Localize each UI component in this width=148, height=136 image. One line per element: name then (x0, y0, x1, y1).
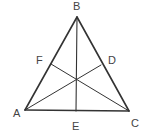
label-point-d: D (108, 54, 116, 66)
label-vertex-a: A (13, 107, 21, 119)
segment-bc (77, 17, 129, 111)
triangle-diagram: A B C D E F (0, 0, 148, 136)
label-point-e: E (72, 120, 79, 132)
segment-be (76, 17, 77, 111)
label-point-f: F (36, 54, 43, 66)
label-vertex-c: C (131, 117, 139, 129)
label-vertex-b: B (73, 0, 80, 12)
segment-ac (25, 110, 129, 111)
